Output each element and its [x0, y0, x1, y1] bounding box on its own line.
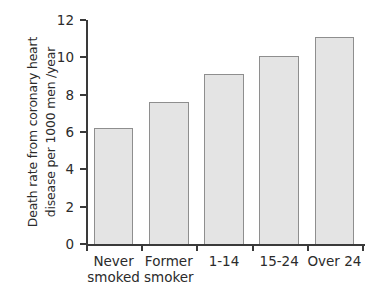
y-axis-tick-label: 2	[65, 199, 74, 215]
bar	[149, 102, 189, 244]
y-axis-title: Death rate from coronary heart disease p…	[6, 14, 54, 250]
x-axis-category-label: Over 24	[301, 253, 368, 269]
y-axis-tick-label: 0	[65, 236, 74, 252]
x-axis-tick	[196, 244, 198, 251]
y-axis-tick-label: 6	[65, 124, 74, 140]
x-axis-tick	[362, 244, 364, 251]
y-axis-tick: 2	[80, 206, 86, 208]
x-axis-tick	[86, 244, 88, 251]
y-axis-tick-label: 10	[57, 49, 74, 65]
x-axis-tick	[252, 244, 254, 251]
y-axis-tick-label: 8	[65, 87, 74, 103]
y-axis-line	[86, 20, 88, 245]
bar	[315, 37, 355, 244]
bar	[259, 56, 299, 244]
y-axis-tick: 8	[80, 94, 86, 96]
x-axis-tick	[141, 244, 143, 251]
y-axis-tick: 12	[80, 19, 86, 21]
y-axis-tick: 6	[80, 131, 86, 133]
bar	[204, 74, 244, 244]
y-axis-tick: 4	[80, 168, 86, 170]
y-axis-tick-label: 4	[65, 161, 74, 177]
plot-area: 024681012 Never smokedFormer smoker1-141…	[86, 20, 362, 244]
y-axis-tick-label: 12	[57, 12, 74, 28]
y-axis-tick: 10	[80, 56, 86, 58]
x-axis-line	[86, 244, 365, 246]
bar-chart: Death rate from coronary heart disease p…	[0, 0, 375, 294]
x-axis-tick	[307, 244, 309, 251]
bar	[94, 128, 134, 244]
